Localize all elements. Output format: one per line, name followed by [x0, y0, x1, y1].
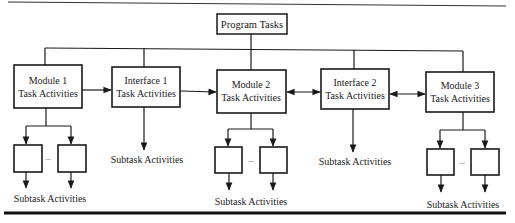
- subtask-box: [427, 149, 454, 175]
- arrow-interface1-to-module2: [180, 91, 216, 92]
- top-rule: [8, 2, 506, 6]
- ellipsis: ...: [248, 155, 254, 164]
- interface1-subtitle: Task Activities: [116, 88, 176, 99]
- task-hierarchy-diagram: Program Tasks Module 1 Task Activities I…: [0, 0, 515, 223]
- interface2-title: Interface 2: [333, 77, 376, 88]
- module3-title: Module 3: [441, 80, 480, 91]
- module2-subtask-label: Subtask Activities: [215, 196, 288, 207]
- subtask-box: [58, 145, 86, 172]
- ellipsis: ...: [459, 157, 465, 166]
- program-tasks-label: Program Tasks: [221, 19, 283, 30]
- subtask-box: [14, 145, 42, 172]
- subtask-box: [471, 149, 499, 175]
- subtask-box: [215, 147, 242, 173]
- module3-subtitle: Task Activities: [430, 93, 490, 104]
- interface1-title: Interface 1: [124, 75, 167, 86]
- module1-node: Module 1 Task Activities: [14, 65, 82, 108]
- subtask-box: [260, 147, 287, 173]
- module1-title: Module 1: [29, 75, 68, 86]
- module2-subtitle: Task Activities: [221, 92, 281, 103]
- module1-subtitle: Task Activities: [18, 88, 78, 99]
- module3-subtasks: [427, 112, 499, 192]
- program-tasks-node: Program Tasks: [217, 14, 287, 34]
- interface2-node: Interface 2 Task Activities: [321, 69, 389, 109]
- module3-node: Module 3 Task Activities: [426, 72, 494, 112]
- root-connector: [45, 34, 463, 72]
- interface2-subtask-label: Subtask Activities: [319, 156, 392, 167]
- module2-node: Module 2 Task Activities: [217, 70, 286, 113]
- interface1-node: Interface 1 Task Activities: [112, 67, 180, 107]
- module2-title: Module 2: [232, 79, 271, 90]
- module3-subtask-label: Subtask Activities: [427, 199, 500, 210]
- interface2-subtitle: Task Activities: [325, 90, 385, 101]
- ellipsis: ...: [45, 153, 51, 162]
- module1-subtask-label: Subtask Activities: [14, 193, 87, 204]
- interface1-subtask-label: Subtask Activities: [111, 154, 184, 165]
- module1-subtasks: [14, 108, 86, 188]
- module2-subtasks: [215, 113, 287, 190]
